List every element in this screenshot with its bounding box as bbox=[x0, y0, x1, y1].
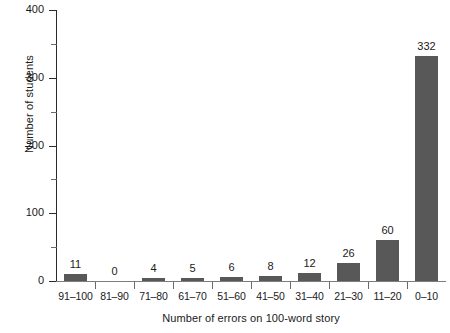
bar bbox=[376, 240, 399, 281]
y-axis-minor-tick bbox=[51, 179, 57, 180]
bar bbox=[337, 263, 360, 281]
y-axis-tick bbox=[49, 78, 57, 79]
y-axis-title: Number of students bbox=[23, 29, 35, 179]
bar bbox=[64, 274, 87, 281]
bar-chart-figure: Number of students 0100200300400 1104568… bbox=[0, 0, 450, 333]
y-axis-tick-label: 200 bbox=[4, 140, 44, 151]
y-axis-minor-tick bbox=[51, 247, 57, 248]
bar bbox=[298, 273, 321, 281]
y-axis-tick-label: 100 bbox=[4, 207, 44, 218]
y-axis-minor-tick bbox=[51, 112, 57, 113]
bar-value-label: 12 bbox=[287, 258, 333, 269]
x-axis-tick bbox=[251, 282, 252, 289]
bar-value-label: 26 bbox=[326, 248, 372, 259]
bar bbox=[259, 276, 282, 281]
x-axis-tick bbox=[407, 282, 408, 289]
x-axis-tick bbox=[290, 282, 291, 289]
x-axis-title: Number of errors on 100-word story bbox=[56, 312, 446, 324]
y-axis-tick-label: 0 bbox=[4, 275, 44, 286]
y-axis-tick bbox=[49, 10, 57, 11]
x-axis-category-label: 0–10 bbox=[404, 291, 450, 302]
bar bbox=[142, 278, 165, 281]
bar bbox=[415, 56, 438, 281]
y-axis-tick bbox=[49, 213, 57, 214]
y-axis-tick-label: 300 bbox=[4, 72, 44, 83]
x-axis-tick bbox=[173, 282, 174, 289]
x-axis-tick bbox=[212, 282, 213, 289]
bar bbox=[181, 278, 204, 281]
x-axis-tick bbox=[368, 282, 369, 289]
y-axis-minor-tick bbox=[51, 44, 57, 45]
bar bbox=[220, 277, 243, 281]
x-axis-tick bbox=[329, 282, 330, 289]
y-axis-tick-label: 400 bbox=[4, 4, 44, 15]
y-axis-tick bbox=[49, 146, 57, 147]
bar-value-label: 332 bbox=[404, 41, 450, 52]
bar-value-label: 60 bbox=[365, 225, 411, 236]
x-axis-tick bbox=[95, 282, 96, 289]
x-axis-tick bbox=[134, 282, 135, 289]
